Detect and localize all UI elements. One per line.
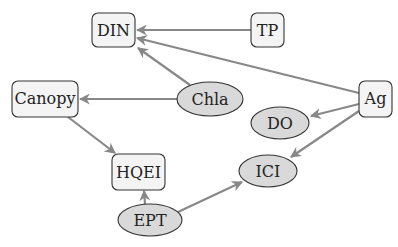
node-ag-label: Ag — [364, 89, 387, 108]
node-hqei-label: HQEI — [116, 163, 161, 182]
edge-canopy-hqei — [68, 117, 115, 153]
edge-ept-ici — [178, 182, 242, 212]
node-tp-label: TP — [257, 21, 279, 40]
node-ept: EPT — [118, 204, 182, 236]
edge-chla-din — [138, 48, 190, 85]
node-tp: TP — [251, 13, 284, 47]
node-din: DIN — [92, 13, 135, 47]
node-ici-label: ICI — [256, 162, 281, 181]
node-do: DO — [251, 107, 309, 139]
node-canopy-label: Canopy — [15, 89, 76, 108]
edge-ag-din — [137, 38, 359, 93]
node-ag: Ag — [359, 81, 392, 117]
node-chla-label: Chla — [191, 90, 229, 109]
edge-ag-do — [311, 104, 359, 116]
edge-ept-hqei — [144, 191, 145, 204]
node-hqei: HQEI — [112, 154, 165, 190]
node-chla: Chla — [177, 82, 243, 116]
node-do-label: DO — [267, 114, 293, 133]
node-canopy: Canopy — [12, 81, 78, 117]
node-ept-label: EPT — [133, 211, 166, 230]
causal-diagram: DIN TP Canopy Chla Ag DO HQEI ICI EPT — [0, 0, 398, 247]
node-ici: ICI — [239, 155, 297, 187]
node-din-label: DIN — [97, 21, 130, 40]
